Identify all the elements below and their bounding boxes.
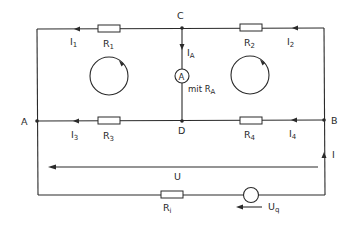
node-c-dot [180,26,184,30]
i2-arrow-icon [292,26,298,31]
node-b-label: B [331,115,338,126]
i3-label: I3 [71,129,78,142]
node-b-dot [322,118,326,122]
ammeter-note: mit RA [188,84,216,96]
i1-label: I1 [70,36,77,49]
ammeter-letter: A [179,72,185,82]
wires [37,28,325,195]
node-d-label: D [178,125,185,136]
ri-label: Ri [163,202,172,215]
voltage-source-symbol [244,188,259,203]
r3-label: R3 [103,130,114,143]
i4-label: I4 [289,128,297,141]
node-c-label: C [177,10,184,21]
ia-arrow-icon [180,44,185,50]
circuit-svg: C D A B R1 R2 R3 R4 Ri I1 I2 I3 I4 IA I … [0,0,352,225]
u-label: U [174,171,181,182]
r1-label: R1 [103,38,114,51]
circuit-diagram: C D A B R1 R2 R3 R4 Ri I1 I2 I3 I4 IA I … [0,0,352,225]
i3-arrow-icon [73,119,79,124]
right-mesh-loop-icon [231,56,269,94]
resistor-r3 [98,117,120,124]
resistor-r2 [240,24,262,31]
i-label: I [332,149,335,160]
ia-label: IA [187,47,195,60]
uq-label: Uq [268,201,279,214]
left-wire [37,29,38,195]
r4-label: R4 [244,129,256,142]
i4-arrow-icon [291,118,297,123]
node-a-label: A [21,116,28,127]
resistor-r4 [240,117,262,124]
uq-arrow-icon [236,205,243,210]
node-d-dot [180,119,184,123]
i-arrow-icon [322,152,327,158]
node-a-dot [35,119,39,123]
right-wire [324,28,325,195]
resistor-ri [161,191,183,198]
left-mesh-loop-icon [90,57,128,95]
i1-arrow-icon [74,27,80,32]
u-arrow-icon [48,165,56,170]
r2-label: R2 [244,37,255,50]
resistor-r1 [98,25,120,32]
i2-label: I2 [287,36,294,49]
